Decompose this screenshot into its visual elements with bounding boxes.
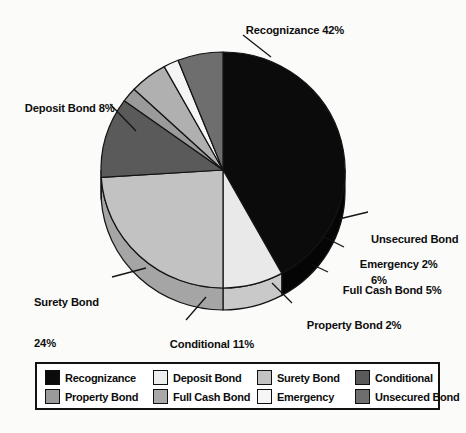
callout-text-surety-bond: Surety Bond [34, 296, 99, 310]
callout-text-deposit-bond: Deposit Bond 8% [25, 102, 115, 114]
legend-swatch-surety-bond [257, 370, 272, 385]
legend-grid: RecognizanceDeposit BondSurety BondCondi… [45, 368, 432, 404]
legend-swatch-recognizance [45, 370, 60, 385]
legend-item-deposit-bond[interactable]: Deposit Bond [153, 368, 257, 387]
chart-legend: RecognizanceDeposit BondSurety BondCondi… [35, 362, 440, 410]
callout-label-conditional: Conditional 11% [158, 324, 254, 365]
pie-chart-figure: Recognizance 42% Deposit Bond 8% Surety … [0, 0, 466, 433]
legend-label-full-cash-bond: Full Cash Bond [173, 391, 250, 403]
legend-label-property-bond: Property Bond [65, 391, 138, 403]
pie-slice-surety-bond[interactable] [101, 170, 223, 288]
legend-item-conditional[interactable]: Conditional [355, 368, 465, 387]
callout-label-deposit-bond: Deposit Bond 8% [13, 88, 115, 129]
callout-text-conditional: Conditional 11% [170, 338, 254, 350]
legend-label-deposit-bond: Deposit Bond [173, 372, 242, 384]
legend-label-surety-bond: Surety Bond [277, 372, 340, 384]
legend-swatch-full-cash-bond [153, 389, 168, 404]
legend-label-recognizance: Recognizance [65, 372, 136, 384]
legend-swatch-unsecured-bond [355, 389, 370, 404]
legend-item-emergency[interactable]: Emergency [257, 387, 355, 406]
legend-label-conditional: Conditional [375, 372, 433, 384]
legend-swatch-emergency [257, 389, 272, 404]
callout-value-unsecured-bond: 6% [371, 274, 458, 288]
legend-item-recognizance[interactable]: Recognizance [45, 368, 153, 387]
callout-text-recognizance: Recognizance 42% [246, 24, 344, 36]
legend-item-unsecured-bond[interactable]: Unsecured Bond [355, 387, 465, 406]
legend-swatch-deposit-bond [153, 370, 168, 385]
callout-text-property-bond: Property Bond 2% [307, 319, 402, 331]
legend-item-surety-bond[interactable]: Surety Bond [257, 368, 355, 387]
callout-label-recognizance: Recognizance 42% [234, 10, 344, 51]
legend-swatch-conditional [355, 370, 370, 385]
callout-label-surety-bond: Surety Bond 24% [34, 269, 99, 377]
legend-item-full-cash-bond[interactable]: Full Cash Bond [153, 387, 257, 406]
pie-top-faces [101, 52, 345, 288]
callout-value-surety-bond: 24% [34, 337, 99, 351]
legend-item-property-bond[interactable]: Property Bond [45, 387, 153, 406]
legend-label-emergency: Emergency [277, 391, 334, 403]
legend-label-unsecured-bond: Unsecured Bond [375, 391, 460, 403]
legend-swatch-property-bond [45, 389, 60, 404]
callout-text-unsecured-bond: Unsecured Bond [371, 233, 458, 247]
callout-label-unsecured-bond: Unsecured Bond 6% [371, 206, 458, 314]
